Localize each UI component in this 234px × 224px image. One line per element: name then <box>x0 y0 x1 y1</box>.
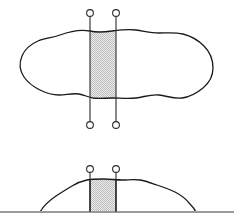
elevation-view-outline <box>40 179 196 212</box>
plan-cross-section-fill <box>90 19 116 110</box>
plan-slice-group <box>90 19 116 110</box>
plan-view-outline <box>20 30 213 99</box>
plan-view-group <box>20 10 213 129</box>
section-marker-bottom-left[interactable] <box>87 122 94 129</box>
elevation-section-marker-right[interactable] <box>113 166 120 173</box>
elevation-view-group <box>0 166 234 212</box>
section-marker-top-right[interactable] <box>113 10 120 17</box>
technical-diagram <box>0 0 234 224</box>
section-marker-bottom-right[interactable] <box>113 122 120 129</box>
elevation-section-marker-left[interactable] <box>87 166 94 173</box>
section-marker-top-left[interactable] <box>87 10 94 17</box>
figure-root <box>0 0 234 224</box>
